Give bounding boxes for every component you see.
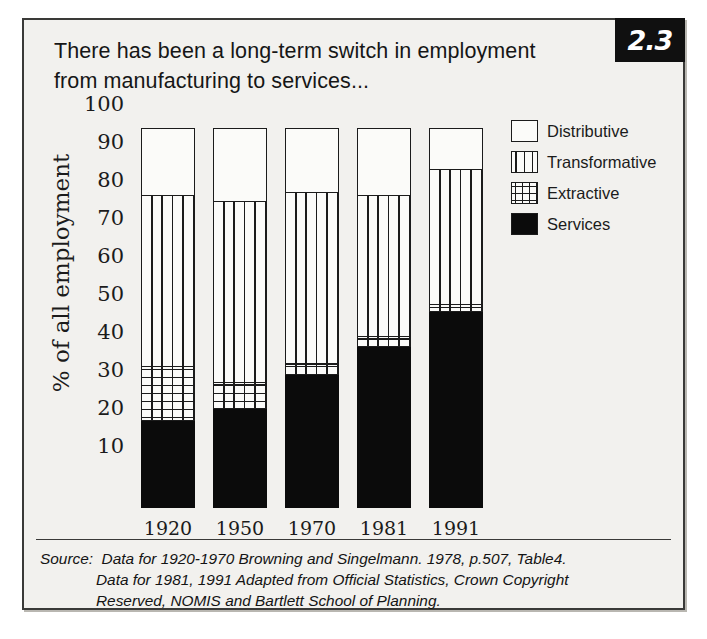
bar-segment-1920-extractive [141, 367, 195, 420]
bar-segment-1991-services [429, 312, 483, 508]
bar-segment-1970-transformative [285, 193, 339, 364]
bar-segment-1991-distributive [429, 128, 483, 170]
bar-1970: 1970 [285, 128, 339, 508]
legend-label-extractive: Extractive [547, 184, 619, 203]
plot-area: 1009080706050403020101920195019701981199… [132, 128, 492, 508]
source-line-2: Data for 1981, 1991 Adapted from Officia… [40, 569, 669, 590]
source-text-1: Data for 1920-1970 Browning and Singelma… [102, 550, 567, 567]
x-tick-1950: 1950 [213, 517, 267, 539]
bar-segment-1950-transformative [213, 202, 267, 383]
bar-segment-1991-extractive [429, 305, 483, 313]
bar-segment-1920-distributive [141, 128, 195, 196]
y-tick-100: 100 [84, 92, 124, 116]
y-tick-70: 70 [97, 206, 124, 230]
figure-number-badge: 2.3 [615, 18, 685, 62]
bar-segment-1950-extractive [213, 383, 267, 410]
y-tick-50: 50 [97, 282, 124, 306]
bar-1981: 1981 [357, 128, 411, 508]
figure-panel: 2.3 There has been a long-term switch in… [22, 18, 685, 610]
x-tick-1970: 1970 [285, 517, 339, 539]
legend-label-services: Services [547, 215, 610, 234]
legend-label-distributive: Distributive [547, 122, 629, 141]
bar-segment-1920-transformative [141, 196, 195, 367]
x-tick-1920: 1920 [141, 517, 195, 539]
legend-item-services: Services [511, 209, 686, 239]
y-tick-90: 90 [97, 130, 124, 154]
chart-legend: DistributiveTransformativeExtractiveServ… [511, 116, 686, 240]
legend-swatch-transformative [511, 151, 538, 173]
figure-title-line-2: from manufacturing to services... [54, 66, 614, 96]
source-divider [36, 539, 671, 540]
y-tick-40: 40 [97, 320, 124, 344]
bar-segment-1981-extractive [357, 337, 411, 347]
y-tick-20: 20 [97, 396, 124, 420]
bar-segment-1981-services [357, 347, 411, 509]
bar-segment-1970-extractive [285, 364, 339, 375]
x-tick-1981: 1981 [357, 517, 411, 539]
source-label: Source: [40, 550, 93, 567]
bar-1991: 1991 [429, 128, 483, 508]
legend-swatch-distributive [511, 120, 538, 142]
y-tick-80: 80 [97, 168, 124, 192]
figure-title: There has been a long-term switch in emp… [54, 36, 614, 96]
source-note: Source: Data for 1920-1970 Browning and … [40, 548, 669, 611]
y-tick-30: 30 [97, 358, 124, 382]
legend-item-extractive: Extractive [511, 178, 686, 208]
bar-1950: 1950 [213, 128, 267, 508]
bar-segment-1950-distributive [213, 128, 267, 202]
legend-label-transformative: Transformative [547, 153, 656, 172]
legend-swatch-services [511, 213, 538, 235]
source-line-1: Source: Data for 1920-1970 Browning and … [40, 548, 669, 569]
y-tick-10: 10 [97, 434, 124, 458]
bar-segment-1981-distributive [357, 128, 411, 196]
x-tick-1991: 1991 [429, 517, 483, 539]
y-axis-label: % of all employment [48, 143, 74, 403]
legend-item-distributive: Distributive [511, 116, 686, 146]
legend-swatch-extractive [511, 182, 538, 204]
source-line-3: Reserved, NOMIS and Bartlett School of P… [40, 590, 669, 611]
legend-item-transformative: Transformative [511, 147, 686, 177]
bar-segment-1920-services [141, 421, 195, 508]
bar-segment-1970-services [285, 375, 339, 508]
y-tick-60: 60 [97, 244, 124, 268]
bar-segment-1991-transformative [429, 170, 483, 305]
bar-segment-1950-services [213, 409, 267, 508]
figure-title-line-1: There has been a long-term switch in emp… [54, 36, 614, 66]
bar-segment-1970-distributive [285, 128, 339, 193]
bar-segment-1981-transformative [357, 196, 411, 337]
bar-1920: 1920 [141, 128, 195, 508]
